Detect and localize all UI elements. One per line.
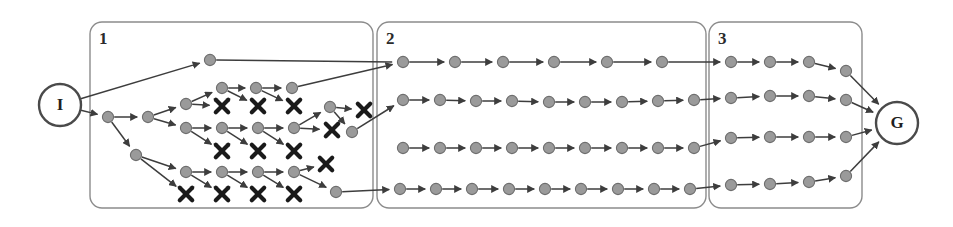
edge-r3d3-to-r3d4: [815, 178, 835, 181]
graph-node: [503, 183, 514, 194]
endpoint-nodes-layer: [39, 84, 918, 144]
graph-node: [648, 183, 659, 194]
edge-b0-to-c0: [192, 92, 212, 101]
graph-node: [725, 179, 736, 190]
edge-r3b3-to-r3b4: [815, 97, 835, 99]
dead-end-marker: [288, 100, 300, 112]
dead-end-marker: [320, 158, 332, 170]
edge-g0-to-x11: [336, 108, 351, 109]
graph-node: [725, 56, 736, 67]
edge-n_top1-to-r2a1: [216, 60, 392, 62]
edge-r3a4-to-G: [850, 75, 878, 104]
graph-node: [497, 56, 508, 67]
graph-node: [180, 98, 191, 109]
edge-r3d2-to-r3d3: [776, 183, 798, 184]
graph-node: [397, 142, 408, 153]
edge-a1-to-d0: [154, 119, 176, 125]
graph-node: [102, 111, 113, 122]
graph-node: [803, 131, 814, 142]
graph-node: [330, 186, 341, 197]
graph-node: [684, 183, 695, 194]
edge-c2-to-r2a1: [298, 64, 392, 86]
edge-a1-to-b0: [154, 107, 176, 114]
dead-end-marker: [216, 145, 228, 157]
graph-node: [397, 56, 408, 67]
edge-c0-to-x2: [228, 91, 247, 101]
graph-node: [616, 142, 627, 153]
graph-node: [652, 142, 663, 153]
graph-node: [616, 96, 627, 107]
edge-d1-to-x5: [227, 131, 247, 144]
edge-r2b4-to-r2b5: [518, 101, 538, 102]
graph-node: [216, 122, 227, 133]
edge-d3-to-g0: [299, 112, 320, 124]
graph-node: [575, 183, 586, 194]
edge-h0-to-r2d1: [342, 190, 389, 192]
edge-r2d9-to-r3d1: [696, 186, 720, 188]
graph-node: [506, 95, 517, 106]
edge-r2b8-to-r2b9: [664, 100, 683, 101]
edge-d2-to-x6: [263, 131, 283, 144]
edge-b0-to-x1: [192, 104, 209, 105]
graph-node: [612, 183, 623, 194]
graph-node: [840, 131, 851, 142]
dead-end-marker: [288, 188, 300, 200]
edge-r3b1-to-r3b2: [737, 97, 759, 98]
graph-node: [434, 94, 445, 105]
graph-node: [180, 122, 191, 133]
edge-I-to-n_top1: [81, 63, 200, 99]
graph-node: [216, 82, 227, 93]
edge-f2-to-x10: [263, 175, 283, 187]
graph-node: [656, 56, 667, 67]
region-label-1: 1: [99, 30, 108, 47]
dead-end-marker: [216, 188, 228, 200]
edge-f1-to-x9: [227, 175, 247, 187]
graph-node: [803, 56, 814, 67]
edge-r2b2-to-r2b3: [446, 100, 465, 101]
edge-f0-to-x8: [191, 175, 211, 187]
graph-node: [840, 170, 851, 181]
diagram-canvas: IG123: [0, 0, 953, 227]
region-label-3: 3: [718, 30, 727, 47]
region-boxes-layer: [90, 22, 862, 208]
graph-node: [725, 92, 736, 103]
graph-node: [803, 176, 814, 187]
graph-node: [840, 94, 851, 105]
graph-node: [434, 142, 445, 153]
graph-node: [764, 131, 775, 142]
graph-node: [397, 94, 408, 105]
graph-node: [346, 126, 357, 137]
graph-node: [764, 90, 775, 101]
edge-a0-to-e0: [112, 122, 130, 146]
graph-node: [449, 56, 460, 67]
edge-r3a3-to-r3a4: [815, 63, 835, 68]
dead-end-marker: [326, 124, 338, 136]
graph-node: [286, 82, 297, 93]
edge-r3d1-to-r3d2: [737, 184, 759, 185]
dead-end-marker: [252, 188, 264, 200]
graph-node: [324, 101, 335, 112]
graph-node: [288, 166, 299, 177]
graph-node: [543, 96, 554, 107]
region-box-2: [377, 22, 706, 208]
graph-node: [506, 142, 517, 153]
graph-node: [180, 166, 191, 177]
graph-node: [130, 149, 141, 160]
graph-node: [466, 183, 477, 194]
goal-state-node-label: G: [877, 114, 917, 131]
graph-node: [204, 54, 215, 65]
graph-node: [430, 183, 441, 194]
region-label-2: 2: [386, 30, 395, 47]
edge-r3d4-to-G: [850, 142, 879, 172]
graph-node: [764, 178, 775, 189]
edge-r3c1-to-r3c2: [737, 137, 759, 138]
graph-node: [688, 142, 699, 153]
edge-r2b7-to-r2b8: [628, 101, 647, 102]
graph-node: [252, 122, 263, 133]
graph-node: [579, 96, 590, 107]
edge-f3-to-h0: [300, 175, 327, 188]
edge-g0-to-g1: [334, 112, 345, 124]
graph-node: [548, 56, 559, 67]
graph-node: [539, 183, 550, 194]
edge-d0-to-x4: [191, 131, 211, 144]
